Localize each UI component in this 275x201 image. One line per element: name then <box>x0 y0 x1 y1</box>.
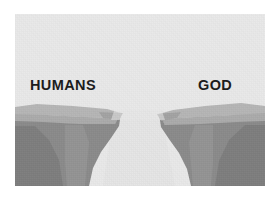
label-god: GOD <box>198 78 232 93</box>
canyon-illustration: HUMANS GOD <box>15 14 265 186</box>
right-cliff-striation <box>189 125 213 186</box>
screenshot-canvas: HUMANS GOD <box>0 0 275 201</box>
chasm-haze <box>111 108 165 120</box>
left-cliff-striation <box>65 125 89 186</box>
label-humans: HUMANS <box>30 78 96 93</box>
scene-vector-art <box>15 14 265 186</box>
